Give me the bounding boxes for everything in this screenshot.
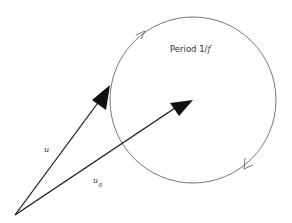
diagram-canvas [0, 0, 292, 223]
vector-ug [15, 108, 175, 215]
vector-ug-arrowhead-icon [170, 100, 193, 116]
direction-arrow-bottom-icon [244, 158, 253, 169]
vector-ug-label: ug [93, 176, 102, 187]
vector-u-label: u [44, 145, 49, 154]
direction-arrow-top-icon [136, 31, 145, 39]
period-label: Period 1/f [170, 44, 211, 54]
vector-u [15, 100, 100, 215]
